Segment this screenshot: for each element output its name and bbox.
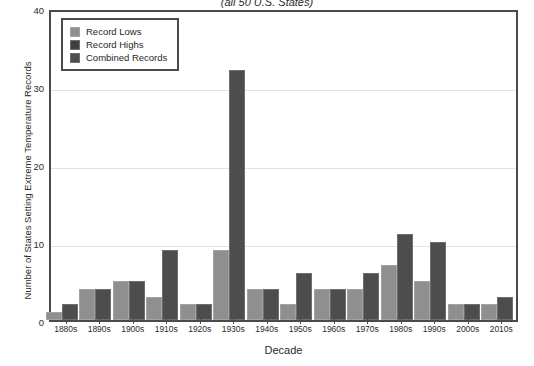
x-tick-mark (501, 319, 502, 324)
bar-combined-records (196, 304, 212, 320)
x-tick-mark (66, 319, 67, 324)
bar-group (420, 12, 454, 320)
x-tick-label: 1950s (289, 324, 312, 334)
x-tick-label: 1960s (322, 324, 345, 334)
x-tick-mark (99, 319, 100, 324)
bar-group (286, 12, 320, 320)
x-tick-label: 1900s (121, 324, 144, 334)
chart-figure: (all 50 U.S. States) 010203040 Number of… (0, 0, 534, 366)
x-tick-label: 1920s (188, 324, 211, 334)
legend-label: Combined Records (86, 52, 167, 63)
x-tick-mark (300, 319, 301, 324)
x-tick-label: 1990s (423, 324, 446, 334)
bar-record-lows (79, 289, 95, 320)
x-tick-label: 1880s (54, 324, 77, 334)
legend-swatch-icon (70, 40, 80, 50)
x-tick-mark (233, 319, 234, 324)
bar-group (319, 12, 353, 320)
x-tick-label: 1930s (222, 324, 245, 334)
x-tick-label: 1890s (88, 324, 111, 334)
x-tick-mark (200, 319, 201, 324)
y-axis-label: Number of States Setting Extreme Tempera… (22, 36, 33, 326)
bar-combined-records (497, 297, 513, 320)
bar-combined-records (263, 289, 279, 320)
legend-label: Record Highs (86, 39, 144, 50)
legend-item: Record Highs (70, 38, 167, 51)
legend-swatch-icon (70, 27, 80, 37)
bar-combined-records (330, 289, 346, 320)
y-tick-label: 10 (33, 239, 49, 250)
bar-combined-records (162, 250, 178, 320)
bar-record-lows (113, 281, 129, 320)
bar-combined-records (363, 273, 379, 320)
x-tick-mark (133, 319, 134, 324)
x-tick-mark (434, 319, 435, 324)
bar-group (487, 12, 521, 320)
chart-legend: Record LowsRecord HighsCombined Records (61, 18, 179, 71)
bar-record-lows (213, 250, 229, 320)
bar-record-lows (314, 289, 330, 320)
bar-record-lows (180, 304, 196, 320)
bar-combined-records (430, 242, 446, 320)
bar-combined-records (397, 234, 413, 320)
x-tick-mark (468, 319, 469, 324)
bar-record-lows (347, 289, 363, 320)
x-tick-label: 2010s (490, 324, 513, 334)
legend-item: Record Lows (70, 25, 167, 38)
x-tick-label: 1980s (389, 324, 412, 334)
bar-record-lows (448, 304, 464, 320)
bar-record-lows (146, 297, 162, 320)
bar-group (252, 12, 286, 320)
bar-record-lows (46, 312, 62, 320)
x-tick-label: 1910s (155, 324, 178, 334)
bar-record-lows (280, 304, 296, 320)
bar-combined-records (62, 304, 78, 320)
bar-group (386, 12, 420, 320)
bar-combined-records (129, 281, 145, 320)
y-tick-label: 40 (33, 5, 49, 16)
bar-combined-records (95, 289, 111, 320)
x-tick-mark (401, 319, 402, 324)
bar-record-lows (414, 281, 430, 320)
bar-combined-records (296, 273, 312, 320)
bar-record-lows (381, 265, 397, 320)
x-tick-mark (166, 319, 167, 324)
chart-title: (all 50 U.S. States) (0, 0, 534, 8)
bar-combined-records (464, 304, 480, 320)
legend-label: Record Lows (86, 26, 141, 37)
x-axis-label: Decade (49, 344, 518, 356)
bar-group (219, 12, 253, 320)
bar-record-lows (481, 304, 497, 320)
bar-group (453, 12, 487, 320)
y-tick-label: 30 (33, 83, 49, 94)
x-tick-mark (267, 319, 268, 324)
x-axis-ticks: 1880s1890s1900s1910s1920s1930s1940s1950s… (49, 324, 518, 340)
legend-item: Combined Records (70, 51, 167, 64)
x-tick-label: 2000s (456, 324, 479, 334)
legend-swatch-icon (70, 53, 80, 63)
x-tick-mark (334, 319, 335, 324)
x-tick-mark (367, 319, 368, 324)
bar-combined-records (229, 70, 245, 320)
y-tick-label: 20 (33, 161, 49, 172)
bar-record-lows (247, 289, 263, 320)
x-tick-label: 1970s (356, 324, 379, 334)
x-tick-label: 1940s (255, 324, 278, 334)
